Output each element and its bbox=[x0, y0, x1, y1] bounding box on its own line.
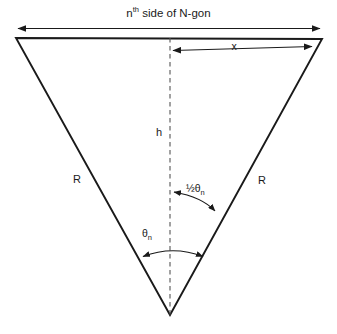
diagram-canvas bbox=[0, 0, 337, 334]
label-half-side-x: x bbox=[231, 41, 236, 52]
label-half-apex-angle-main: ½θ bbox=[186, 182, 201, 194]
half-apex-angle-arc bbox=[174, 192, 215, 211]
label-radius-right: R bbox=[258, 175, 266, 186]
label-apex-angle: θn bbox=[142, 228, 152, 239]
label-apex-angle-sub: n bbox=[148, 233, 152, 242]
half-side-arrow bbox=[173, 47, 312, 51]
geometry-diagram: nth side of N-gon x h R R ½θn θn bbox=[0, 0, 337, 334]
label-half-apex-angle: ½θn bbox=[186, 183, 205, 194]
diagram-title: nth side of N-gon bbox=[0, 8, 337, 20]
label-radius-left: R bbox=[73, 174, 81, 185]
diagram-title-rest: side of N-gon bbox=[139, 7, 211, 19]
apex-angle-arc bbox=[143, 251, 203, 257]
label-height-h: h bbox=[156, 127, 162, 138]
triangle-outline bbox=[16, 38, 322, 315]
label-half-apex-angle-sub: n bbox=[201, 188, 205, 197]
